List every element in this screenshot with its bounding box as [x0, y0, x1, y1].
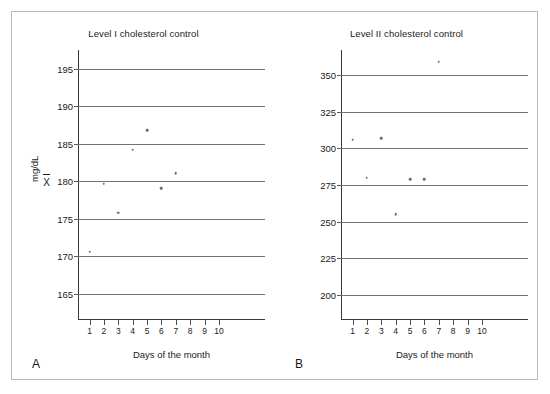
panel-a-letter: A	[32, 357, 40, 371]
panel-a-y-axis	[78, 50, 79, 320]
x-tick-mark	[396, 320, 397, 325]
x-tick-mark	[147, 320, 148, 325]
data-point	[438, 60, 441, 63]
panel-b-x-axis	[341, 319, 528, 320]
x-tick-label: 8	[451, 326, 456, 336]
data-point	[146, 129, 149, 132]
y-tick-label: 275	[320, 180, 336, 191]
x-tick-label: 9	[465, 326, 470, 336]
y-tick-mark	[337, 148, 341, 149]
y-tick-mark	[337, 75, 341, 76]
x-tick-mark	[133, 320, 134, 325]
x-tick-mark	[118, 320, 119, 325]
gridline	[341, 148, 528, 149]
x-tick-mark	[219, 320, 220, 325]
x-tick-mark	[439, 320, 440, 325]
panel-b-plot-area: 20022525027530032535012345678910	[341, 50, 528, 320]
x-tick-label: 10	[477, 326, 486, 336]
y-tick-mark	[337, 222, 341, 223]
chart-panel-b: Level II cholesterol control 20022525027…	[275, 12, 538, 379]
x-tick-mark	[161, 320, 162, 325]
y-tick-label: 300	[320, 143, 336, 154]
panel-b-title: Level II cholesterol control	[275, 28, 538, 39]
data-point	[366, 176, 369, 179]
x-tick-label: 8	[188, 326, 193, 336]
x-tick-label: 4	[393, 326, 398, 336]
gridline	[78, 69, 265, 70]
gridline	[78, 219, 265, 220]
x-tick-label: 6	[159, 326, 164, 336]
x-tick-label: 10	[214, 326, 223, 336]
y-tick-mark	[74, 69, 78, 70]
x-tick-mark	[176, 320, 177, 325]
y-tick-mark	[74, 181, 78, 182]
x-tick-mark	[381, 320, 382, 325]
x-tick-mark	[190, 320, 191, 325]
mean-symbol-letter: X	[43, 177, 50, 188]
x-tick-label: 6	[422, 326, 427, 336]
x-tick-label: 7	[436, 326, 441, 336]
x-tick-mark	[453, 320, 454, 325]
x-tick-mark	[482, 320, 483, 325]
y-tick-label: 185	[57, 138, 73, 149]
data-point	[351, 138, 354, 141]
x-tick-label: 4	[130, 326, 135, 336]
gridline	[341, 185, 528, 186]
gridline	[78, 181, 265, 182]
gridline	[78, 256, 265, 257]
x-tick-label: 2	[102, 326, 107, 336]
data-point	[131, 148, 134, 151]
x-tick-mark	[468, 320, 469, 325]
x-tick-mark	[104, 320, 105, 325]
panel-b-letter: B	[295, 357, 303, 371]
y-tick-label: 190	[57, 101, 73, 112]
x-tick-mark	[90, 320, 91, 325]
data-point	[103, 182, 106, 185]
y-tick-mark	[74, 256, 78, 257]
y-tick-label: 350	[320, 69, 336, 80]
data-point	[409, 178, 412, 181]
panel-a-title: Level I cholesterol control	[12, 28, 275, 39]
x-tick-label: 9	[202, 326, 207, 336]
x-tick-label: 7	[173, 326, 178, 336]
data-point	[117, 211, 120, 214]
y-tick-mark	[337, 258, 341, 259]
y-tick-label: 165	[57, 288, 73, 299]
x-tick-mark	[205, 320, 206, 325]
y-tick-mark	[74, 144, 78, 145]
y-tick-label: 225	[320, 253, 336, 264]
y-tick-label: 325	[320, 106, 336, 117]
gridline	[341, 75, 528, 76]
panel-b-xaxis-title: Days of the month	[341, 349, 528, 360]
figure-frame: Level I cholesterol control mg/dL 165170…	[11, 11, 538, 380]
y-tick-label: 170	[57, 251, 73, 262]
gridline	[341, 112, 528, 113]
y-tick-mark	[74, 219, 78, 220]
x-tick-mark	[353, 320, 354, 325]
gridline	[341, 222, 528, 223]
mean-overbar	[43, 174, 50, 176]
y-tick-label: 180	[57, 176, 73, 187]
y-tick-mark	[337, 112, 341, 113]
data-point	[380, 137, 383, 140]
y-tick-mark	[74, 106, 78, 107]
x-tick-label: 1	[87, 326, 92, 336]
panel-a-x-axis	[78, 319, 265, 320]
panel-a-xaxis-title: Days of the month	[78, 349, 265, 360]
chart-panel-a: Level I cholesterol control mg/dL 165170…	[12, 12, 275, 379]
y-tick-mark	[337, 185, 341, 186]
gridline	[78, 294, 265, 295]
x-tick-label: 3	[379, 326, 384, 336]
panel-a-yaxis-title: mg/dL	[29, 156, 40, 182]
y-tick-mark	[74, 294, 78, 295]
x-tick-mark	[367, 320, 368, 325]
x-tick-label: 2	[365, 326, 370, 336]
x-tick-mark	[410, 320, 411, 325]
x-tick-label: 1	[350, 326, 355, 336]
y-tick-label: 250	[320, 216, 336, 227]
x-tick-label: 5	[145, 326, 150, 336]
x-tick-label: 5	[408, 326, 413, 336]
y-tick-mark	[337, 295, 341, 296]
data-point	[394, 213, 397, 216]
y-tick-label: 195	[57, 63, 73, 74]
